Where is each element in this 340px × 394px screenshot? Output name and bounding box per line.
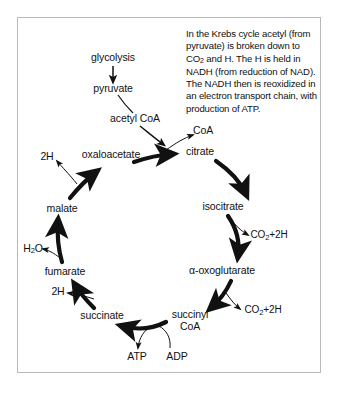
label-succinate: succinate: [80, 310, 123, 321]
arrow-acetylcoa-to-cycle: [140, 126, 164, 145]
cycle-arc-succinylcoa-to-succinate: [122, 322, 166, 328]
label-water: H2O: [23, 243, 43, 255]
arrow-pyruvate-to-acetylcoa: [118, 95, 133, 113]
cycle-arc-malate-to-oxaloacetate: [70, 172, 96, 198]
label-co2-upper: CO2+2H: [250, 230, 287, 241]
cycle-arc-fumarate-to-malate: [58, 221, 62, 262]
arrow-adp-to-cycle: [159, 326, 170, 348]
label-co2-lower: CO2+2H: [244, 305, 281, 316]
label-glycolysis: glycolysis: [91, 52, 135, 63]
water-o: O: [35, 242, 43, 254]
arrow-malate-releases-2h: [57, 161, 77, 184]
label-fumarate: fumarate: [45, 266, 86, 277]
label-adp: ADP: [166, 351, 187, 362]
co2-lower-tail: +2H: [263, 304, 281, 315]
label-pyruvate: pyruvate: [93, 83, 132, 94]
label-succinyl-coa-line1: succinyl: [172, 309, 209, 320]
label-atp: ATP: [127, 351, 146, 362]
caption-part2: and H. The H is held in NADH (from reduc…: [186, 53, 317, 114]
label-2h-upper: 2H: [40, 151, 53, 162]
co2-upper-tail: +2H: [269, 229, 287, 240]
label-oxaloacetate: oxaloacetate: [82, 149, 140, 160]
label-acetyl-coa: acetyl CoA: [110, 113, 160, 124]
label-isocitrate: isocitrate: [202, 201, 243, 212]
label-2h-lower: 2H: [51, 286, 64, 297]
caption-text: In the Krebs cycle acetyl (from pyruvate…: [186, 28, 320, 115]
label-coa: CoA: [193, 125, 213, 136]
label-citrate: citrate: [186, 146, 214, 157]
arrow-oxoglutarate-releases-co2: [226, 293, 240, 309]
co2-upper-text: CO: [250, 229, 265, 240]
label-alpha-oxoglutarate: α-oxoglutarate: [189, 265, 255, 276]
co2-lower-text: CO: [244, 304, 259, 315]
cycle-arc-citrate-to-isocitrate: [216, 161, 246, 194]
label-malate: malate: [47, 203, 78, 214]
label-succinyl-coa-line2: CoA: [180, 321, 200, 332]
cycle-arc-oxoglutarate-to-succinylcoa: [211, 281, 231, 308]
